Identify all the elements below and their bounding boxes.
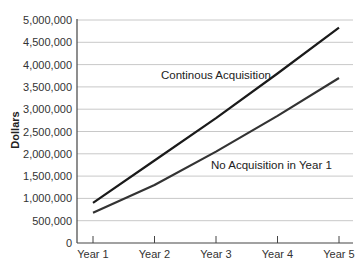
- y-axis-ticks: 0500,0001,000,0001,500,0002,000,0002,500…: [23, 14, 72, 249]
- y-tick-label: 3,500,000: [23, 81, 72, 93]
- y-axis-label: Dollars: [9, 111, 21, 148]
- series-line-continuous-acquisition: [93, 28, 339, 203]
- y-tick-label: 1,500,000: [23, 170, 72, 182]
- y-tick-label: 2,500,000: [23, 126, 72, 138]
- x-tick-label: Year 4: [262, 248, 293, 260]
- y-tick-label: 500,000: [32, 215, 72, 227]
- series-line-no-acquisition: [93, 78, 339, 213]
- y-tick-label: 4,500,000: [23, 36, 72, 48]
- series-lines: [93, 28, 339, 213]
- x-tick-label: Year 3: [200, 248, 231, 260]
- y-tick-label: 0: [66, 237, 72, 249]
- x-tick-label: Year 5: [323, 248, 354, 260]
- x-tick-label: Year 2: [139, 248, 170, 260]
- y-tick-label: 2,000,000: [23, 148, 72, 160]
- y-tick-label: 1,000,000: [23, 192, 72, 204]
- x-tick-label: Year 1: [77, 248, 108, 260]
- y-tick-label: 4,000,000: [23, 59, 72, 71]
- x-axis-ticks: Year 1Year 2Year 3Year 4Year 5: [77, 236, 354, 260]
- annotation-continuous-acquisition: Continous Acquisition: [161, 69, 271, 81]
- gridlines: [77, 20, 353, 221]
- y-tick-label: 3,000,000: [23, 103, 72, 115]
- y-tick-label: 5,000,000: [23, 14, 72, 26]
- annotation-no-acquisition: No Acquisition in Year 1: [211, 159, 332, 171]
- line-chart: 0500,0001,000,0001,500,0002,000,0002,500…: [0, 0, 362, 270]
